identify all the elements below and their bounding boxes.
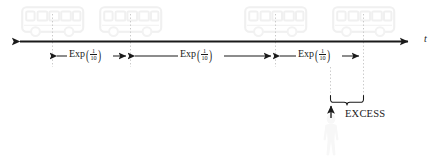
fraction-1-denominator: 10 xyxy=(90,54,97,61)
fraction-2-denominator: 10 xyxy=(201,54,208,61)
fraction-3: 110 xyxy=(319,48,326,62)
paren-close-3: ) xyxy=(327,49,330,62)
timeline-canvas xyxy=(0,0,438,164)
interval-label-3-fn: Exp xyxy=(298,48,314,59)
paren-close-1: ) xyxy=(98,49,101,62)
fraction-1: 110 xyxy=(90,48,97,62)
axis-variable-label: t xyxy=(424,33,427,44)
interval-label-2-fn: Exp xyxy=(180,48,196,59)
timeline-figure: Exp(110) Exp(110) Exp(110) t EXCESS xyxy=(0,0,438,164)
paren-close-2: ) xyxy=(209,49,212,62)
interval-label-1: Exp(110) xyxy=(69,48,102,62)
interval-label-3: Exp(110) xyxy=(298,48,331,62)
paren-open-2: ( xyxy=(197,49,200,62)
interval-label-1-fn: Exp xyxy=(69,48,85,59)
paren-open-1: ( xyxy=(86,49,89,62)
fraction-2: 110 xyxy=(201,48,208,62)
excess-brace xyxy=(331,96,364,106)
fraction-3-denominator: 10 xyxy=(319,54,326,61)
person-icon xyxy=(324,114,339,155)
paren-open-3: ( xyxy=(315,49,318,62)
excess-label: EXCESS xyxy=(345,108,385,119)
interval-label-2: Exp(110) xyxy=(180,48,213,62)
